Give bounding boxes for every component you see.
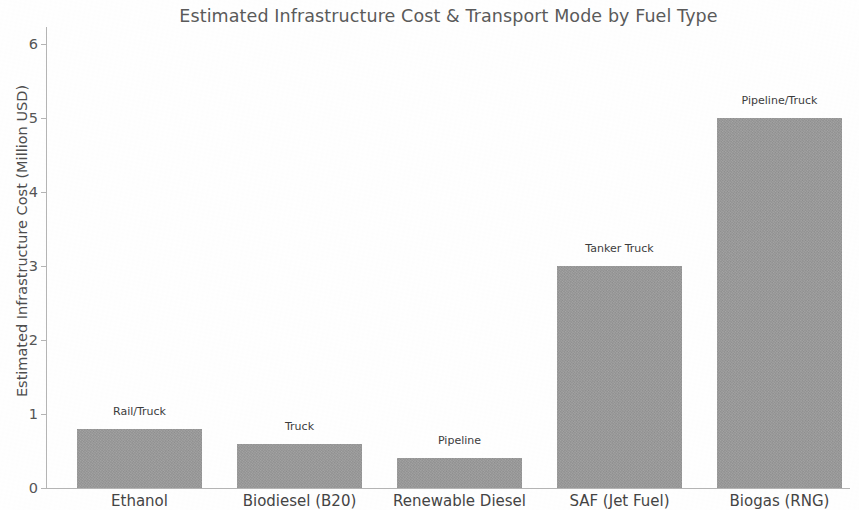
bar-annotation: Truck	[285, 420, 314, 433]
x-axis-tick-label: Biogas (RNG)	[730, 492, 830, 510]
bar	[77, 429, 202, 488]
y-axis-tick-mark	[41, 340, 46, 341]
y-axis-tick-mark	[41, 192, 46, 193]
y-axis-tick-mark	[41, 414, 46, 415]
bar	[237, 444, 362, 488]
x-axis-tick-label: Renewable Diesel	[393, 492, 526, 510]
x-axis-tick-label: SAF (Jet Fuel)	[569, 492, 669, 510]
y-axis-tick-mark	[41, 488, 46, 489]
bar-annotation: Pipeline	[438, 434, 481, 447]
y-axis-tick-mark	[41, 266, 46, 267]
y-axis-tick-label: 6	[10, 36, 38, 52]
y-axis-spine	[46, 27, 47, 489]
y-axis-tick-mark	[41, 44, 46, 45]
bar-annotation: Rail/Truck	[113, 405, 166, 418]
chart-figure: Estimated Infrastructure Cost & Transpor…	[0, 0, 859, 510]
bar	[557, 266, 682, 488]
bar-annotation: Tanker Truck	[585, 242, 653, 255]
bar	[397, 458, 522, 488]
bar	[717, 118, 842, 488]
x-axis-tick-label: Ethanol	[111, 492, 168, 510]
chart-title: Estimated Infrastructure Cost & Transpor…	[47, 6, 850, 26]
y-axis-tick-label: 0	[10, 480, 38, 496]
y-axis-title: Estimated Infrastructure Cost (Million U…	[14, 51, 30, 431]
x-axis-tick-label: Biodiesel (B20)	[243, 492, 357, 510]
bar-annotation: Pipeline/Truck	[742, 94, 818, 107]
y-axis-tick-mark	[41, 118, 46, 119]
x-axis-spine	[46, 488, 850, 489]
